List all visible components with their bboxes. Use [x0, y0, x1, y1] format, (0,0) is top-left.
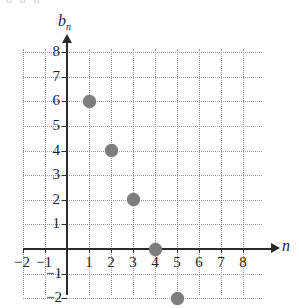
y-axis-label: bn	[58, 12, 71, 32]
data-point	[83, 95, 96, 108]
y-axis-tick	[62, 77, 67, 78]
y-axis-tick	[62, 224, 67, 225]
y-axis-tick	[62, 126, 67, 127]
x-axis-tick	[243, 249, 244, 253]
y-axis-tick-label: 3	[40, 166, 60, 183]
y-axis-arrow-icon	[62, 34, 72, 43]
x-axis-tick-label: −1	[32, 254, 56, 271]
y-axis-line	[66, 43, 68, 295]
x-axis-tick	[23, 249, 24, 253]
page-bleed-text: a a a	[0, 0, 299, 11]
data-point	[171, 292, 184, 305]
y-axis-tick	[62, 175, 67, 176]
y-axis-tick-label: 7	[40, 68, 60, 85]
x-axis-tick	[111, 249, 112, 253]
y-axis-tick-label: 2	[40, 191, 60, 208]
x-axis-tick-label: 4	[145, 254, 165, 271]
y-axis-tick-label: 4	[40, 142, 60, 159]
x-axis-arrow-icon	[271, 243, 280, 253]
y-axis-tick-label: −2	[36, 289, 62, 306]
y-axis-tick-label: 1	[40, 215, 60, 232]
x-axis-tick	[89, 249, 90, 253]
x-axis-tick	[199, 249, 200, 253]
x-axis-tick-label: 2	[101, 254, 121, 271]
y-axis-tick	[62, 298, 67, 299]
x-axis-tick	[45, 249, 46, 253]
y-axis-tick	[62, 101, 67, 102]
x-axis-tick	[133, 249, 134, 253]
data-point	[127, 193, 140, 206]
y-axis-tick-label: 8	[40, 43, 60, 60]
x-axis-tick	[177, 249, 178, 253]
y-axis-tick	[62, 274, 67, 275]
x-axis-tick-label: 7	[211, 254, 231, 271]
y-axis-tick	[62, 52, 67, 53]
x-axis-tick-label: 5	[167, 254, 187, 271]
figure-scatter-plot: a a a 87654321−1−2−2−112345678 bn n	[0, 0, 299, 308]
y-axis-label-base: b	[58, 12, 66, 29]
y-axis-tick-label: 5	[40, 117, 60, 134]
data-point	[105, 144, 118, 157]
y-axis-label-subscript: n	[66, 21, 71, 32]
y-axis-tick	[62, 151, 67, 152]
x-axis-tick-label: −2	[10, 254, 34, 271]
x-axis-tick	[221, 249, 222, 253]
y-axis-tick	[62, 200, 67, 201]
x-axis-tick-label: 8	[233, 254, 253, 271]
data-point	[149, 243, 162, 256]
y-axis-tick-label: 6	[40, 92, 60, 109]
x-axis-tick-label: 6	[189, 254, 209, 271]
x-axis-tick-label: 1	[79, 254, 99, 271]
x-axis-label: n	[282, 237, 290, 255]
x-axis-tick-label: 3	[123, 254, 143, 271]
